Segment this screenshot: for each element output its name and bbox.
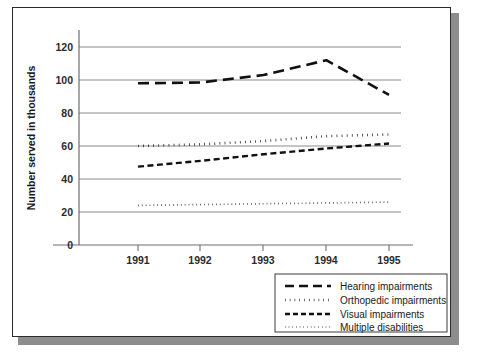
legend-label-hearing-impairments: Hearing impairments <box>340 281 432 292</box>
y-tick-label-80: 80 <box>61 107 73 119</box>
legend-label-orthopedic-impairments: Orthopedic impairments <box>340 295 446 306</box>
legend-label-visual-impairments: Visual impairments <box>340 309 424 320</box>
x-axis-ticks <box>138 245 389 251</box>
x-axis-tick-labels: 1991 1992 1993 1994 1995 <box>126 254 401 266</box>
data-series-layer <box>138 60 389 205</box>
y-tick-label-0: 0 <box>67 239 73 251</box>
y-axis-tick-labels: 120 100 80 60 40 20 0 <box>55 41 73 251</box>
x-tick-label-1994: 1994 <box>314 254 338 266</box>
series-line-orthopedic-impairments <box>138 134 389 146</box>
y-tick-label-60: 60 <box>61 140 73 152</box>
y-tick-label-40: 40 <box>61 173 73 185</box>
y-tick-label-120: 120 <box>55 41 73 53</box>
chart-legend: Hearing impairments Orthopedic impairmen… <box>275 274 447 333</box>
line-chart: 120 100 80 60 40 20 0 Number served in t… <box>13 8 452 338</box>
gridlines <box>79 47 401 212</box>
x-tick-label-1991: 1991 <box>126 254 150 266</box>
series-line-multiple-disabilities <box>138 202 389 205</box>
series-line-hearing-impairments <box>138 60 389 95</box>
figure-frame: 120 100 80 60 40 20 0 Number served in t… <box>12 7 451 337</box>
x-tick-label-1992: 1992 <box>188 254 212 266</box>
x-tick-label-1995: 1995 <box>377 254 401 266</box>
series-line-visual-impairments <box>138 144 389 167</box>
x-tick-label-1993: 1993 <box>251 254 275 266</box>
y-tick-label-20: 20 <box>61 206 73 218</box>
y-tick-label-100: 100 <box>55 74 73 86</box>
y-axis-title: Number served in thousands <box>25 65 37 210</box>
legend-label-multiple-disabilities: Multiple disabilities <box>340 322 423 333</box>
